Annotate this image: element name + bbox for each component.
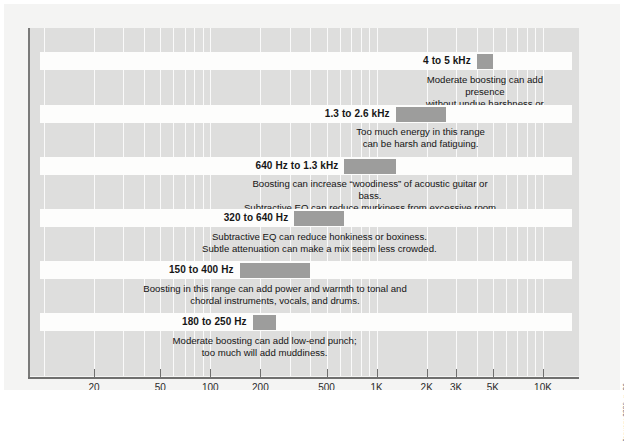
frequency-band-description: Subtractive EQ can reduce honkiness or b… [202,231,437,255]
frequency-band-label: 180 to 250 Hz [182,313,253,331]
x-tick-mark [210,369,211,377]
x-axis-line [28,377,579,379]
frequency-band-label: 150 to 400 Hz [169,261,240,279]
frequency-band-label: 4 to 5 kHz [423,52,477,70]
x-tick-mark [94,369,95,377]
frequency-band-bar [253,315,277,330]
frequency-band-bar [396,107,446,122]
frequency-band-row [40,105,572,123]
figure-page: 4 to 5 kHzModerate boosting can add pres… [0,0,624,441]
y-axis-line [28,28,30,378]
frequency-band-bar [477,54,493,69]
x-tick-mark [543,369,544,377]
x-tick-mark [260,369,261,377]
frequency-band-bar [344,159,395,174]
x-tick-mark [327,369,328,377]
x-tick-mark [377,369,378,377]
page-bottom-margin [0,390,624,441]
frequency-band-bar [240,263,311,278]
frequency-band-row [40,313,572,331]
frequency-band-label: 640 Hz to 1.3 kHz [256,157,345,175]
x-tick-mark [427,369,428,377]
frequency-band-label: 320 to 640 Hz [224,209,295,227]
x-tick-mark [493,369,494,377]
frequency-band-bar [294,211,344,226]
frequency-band-description: Boosting in this range can add power and… [143,283,406,307]
x-tick-mark [456,369,457,377]
frequency-band-description: Too much energy in this range can be har… [356,126,485,150]
frequency-band-description: Moderate boosting can add low-end punch;… [173,335,357,359]
frequency-band-label: 1.3 to 2.6 kHz [325,105,396,123]
x-tick-mark [160,369,161,377]
